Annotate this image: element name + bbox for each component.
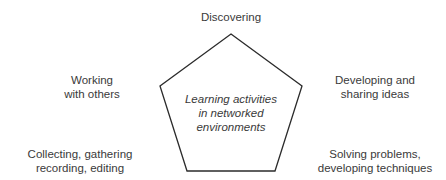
center-label: Learning activities in networked environ… xyxy=(171,92,291,134)
node-developing-sharing-ideas: Developing and sharing ideas xyxy=(320,73,430,101)
node-working-with-others: Working with others xyxy=(52,73,132,101)
node-collecting-gathering: Collecting, gathering recording, editing xyxy=(10,147,150,175)
node-discovering: Discovering xyxy=(191,10,271,24)
node-solving-problems: Solving problems, developing techniques xyxy=(305,147,445,175)
